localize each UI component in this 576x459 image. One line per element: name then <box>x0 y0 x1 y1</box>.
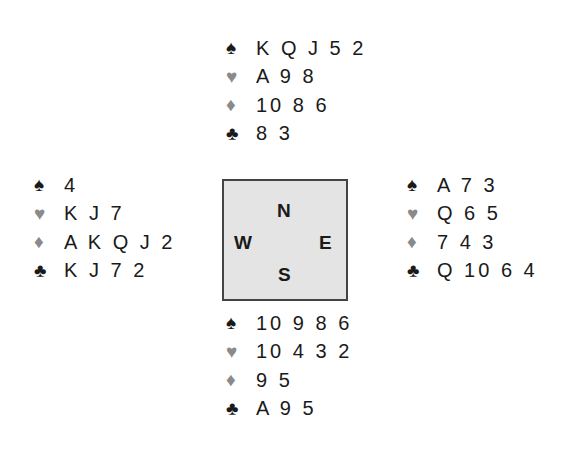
diamond-icon: ♦ <box>226 369 256 391</box>
diamond-icon: ♦ <box>34 231 64 253</box>
north-diamonds-row: ♦ 10 8 6 <box>226 91 366 120</box>
east-diamonds-row: ♦ 7 4 3 <box>407 228 538 257</box>
south-clubs-row: ♣ A 9 5 <box>226 395 352 424</box>
south-spades: 10 9 8 6 <box>256 312 352 335</box>
north-clubs-row: ♣ 8 3 <box>226 120 366 149</box>
west-hand: ♠ 4 ♥ K J 7 ♦ A K Q J 2 ♣ K J 7 2 <box>34 171 175 285</box>
spade-icon: ♠ <box>226 37 256 59</box>
north-hearts-row: ♥ A 9 8 <box>226 63 366 92</box>
compass-east: E <box>319 232 332 254</box>
compass-south: S <box>278 264 291 286</box>
south-diamonds: 9 5 <box>256 369 293 392</box>
east-spades-row: ♠ A 7 3 <box>407 171 538 200</box>
south-hearts: 10 4 3 2 <box>256 340 352 363</box>
west-hearts-row: ♥ K J 7 <box>34 200 175 229</box>
heart-icon: ♥ <box>226 341 256 363</box>
compass-north: N <box>277 200 291 222</box>
diamond-icon: ♦ <box>226 94 256 116</box>
club-icon: ♣ <box>34 260 64 282</box>
club-icon: ♣ <box>407 260 437 282</box>
north-hand: ♠ K Q J 5 2 ♥ A 9 8 ♦ 10 8 6 ♣ 8 3 <box>226 34 366 148</box>
east-clubs: Q 10 6 4 <box>437 259 538 282</box>
east-hearts: Q 6 5 <box>437 202 501 225</box>
west-spades: 4 <box>64 174 78 197</box>
east-diamonds: 7 4 3 <box>437 231 496 254</box>
west-diamonds: A K Q J 2 <box>64 231 175 254</box>
west-spades-row: ♠ 4 <box>34 171 175 200</box>
east-hearts-row: ♥ Q 6 5 <box>407 200 538 229</box>
compass-box: N W E S <box>222 179 348 301</box>
north-diamonds: 10 8 6 <box>256 94 330 117</box>
spade-icon: ♠ <box>34 174 64 196</box>
club-icon: ♣ <box>226 123 256 145</box>
compass-west: W <box>234 232 252 254</box>
south-hand: ♠ 10 9 8 6 ♥ 10 4 3 2 ♦ 9 5 ♣ A 9 5 <box>226 309 352 423</box>
heart-icon: ♥ <box>226 66 256 88</box>
diamond-icon: ♦ <box>407 231 437 253</box>
west-clubs: K J 7 2 <box>64 259 147 282</box>
south-diamonds-row: ♦ 9 5 <box>226 366 352 395</box>
north-spades: K Q J 5 2 <box>256 37 366 60</box>
club-icon: ♣ <box>226 398 256 420</box>
south-spades-row: ♠ 10 9 8 6 <box>226 309 352 338</box>
west-diamonds-row: ♦ A K Q J 2 <box>34 228 175 257</box>
north-hearts: A 9 8 <box>256 65 317 88</box>
east-clubs-row: ♣ Q 10 6 4 <box>407 257 538 286</box>
west-clubs-row: ♣ K J 7 2 <box>34 257 175 286</box>
west-hearts: K J 7 <box>64 202 125 225</box>
east-hand: ♠ A 7 3 ♥ Q 6 5 ♦ 7 4 3 ♣ Q 10 6 4 <box>407 171 538 285</box>
north-spades-row: ♠ K Q J 5 2 <box>226 34 366 63</box>
heart-icon: ♥ <box>407 203 437 225</box>
east-spades: A 7 3 <box>437 174 498 197</box>
spade-icon: ♠ <box>226 312 256 334</box>
heart-icon: ♥ <box>34 203 64 225</box>
north-clubs: 8 3 <box>256 122 293 145</box>
south-clubs: A 9 5 <box>256 397 317 420</box>
south-hearts-row: ♥ 10 4 3 2 <box>226 338 352 367</box>
spade-icon: ♠ <box>407 174 437 196</box>
